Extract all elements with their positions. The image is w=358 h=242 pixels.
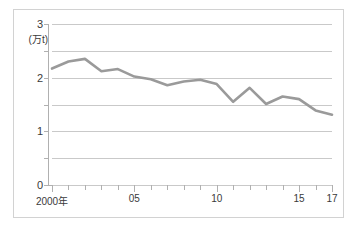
x-tick-label-2015: 15 <box>293 193 304 204</box>
x-tick-2009 <box>200 185 201 190</box>
x-tick-2008 <box>184 185 185 190</box>
x-tick-label-2017: 17 <box>326 193 337 204</box>
x-tick-label-2010: 10 <box>211 193 222 204</box>
x-tick-2002 <box>85 185 86 190</box>
x-tick-2017 <box>332 185 333 192</box>
x-tick-2010 <box>217 185 218 192</box>
x-tick-2006 <box>151 185 152 190</box>
x-tick-2011 <box>233 185 234 190</box>
y-tick-1 <box>44 131 49 132</box>
gridline-y-0 <box>52 185 332 186</box>
y-tick-label-1: 1 <box>37 125 43 137</box>
x-tick-2004 <box>118 185 119 190</box>
y-tick-label-3: 3 <box>37 18 43 30</box>
x-tick-2001 <box>68 185 69 190</box>
y-axis-unit-label: (万t) <box>2 31 48 46</box>
y-tick-label-0: 0 <box>37 179 43 191</box>
x-tick-label-2000: 2000年 <box>36 193 68 208</box>
x-tick-2013 <box>266 185 267 190</box>
x-tick-2014 <box>283 185 284 190</box>
x-tick-2016 <box>316 185 317 190</box>
chart-figure: 0123 (万t) 2000年05101517 <box>0 0 358 242</box>
y-tick-2 <box>44 78 49 79</box>
y-tick-0 <box>44 185 49 186</box>
x-tick-label-2005: 05 <box>129 193 140 204</box>
x-tick-2007 <box>167 185 168 190</box>
series-polyline <box>52 59 332 115</box>
y-tick-3 <box>44 24 49 25</box>
y-tick-0.5 <box>44 158 49 159</box>
data-series-line <box>52 24 332 185</box>
x-tick-2003 <box>101 185 102 190</box>
x-tick-2005 <box>134 185 135 192</box>
x-tick-2012 <box>250 185 251 190</box>
y-tick-1.5 <box>44 105 49 106</box>
y-tick-2.5 <box>44 51 49 52</box>
x-tick-2000 <box>52 185 53 192</box>
y-tick-label-2: 2 <box>37 72 43 84</box>
plot-area: 0123 (万t) 2000年05101517 <box>52 24 332 185</box>
x-tick-2015 <box>299 185 300 192</box>
